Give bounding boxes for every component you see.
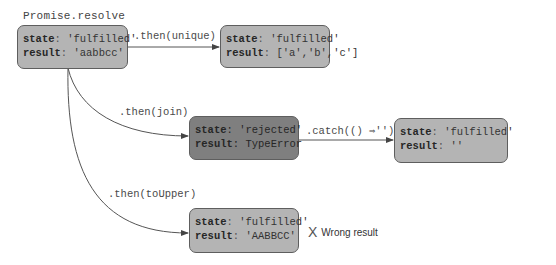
result-key: result	[195, 138, 233, 150]
origin-label: Promise.resolve	[23, 10, 125, 22]
result-key: result	[400, 140, 438, 152]
promise-node-toupper: state: 'fulfilled' result: 'AABBCC'	[189, 208, 299, 253]
result-key: result	[195, 230, 233, 242]
edge-then-toupper	[68, 68, 188, 233]
state-key: state	[226, 33, 258, 45]
result-value: ''	[450, 140, 463, 152]
wrong-result-annotation: XWrong result	[308, 223, 378, 239]
promise-node-join-rejected: state: 'rejected' result: TypeError	[189, 116, 299, 160]
annotation-text: Wrong result	[321, 227, 378, 238]
edge-label-then-toupper: .then(toUpper)	[108, 188, 196, 200]
result-key: result	[226, 47, 264, 59]
edge-label-catch: .catch(() ⇒'')	[306, 124, 394, 137]
result-value: 'AABBCC'	[245, 230, 295, 242]
edge-label-then-join: .then(join)	[119, 106, 188, 118]
result-value: 'aabbcc'	[73, 47, 123, 59]
result-value: ['a','b','c']	[276, 47, 358, 59]
state-key: state	[400, 126, 432, 138]
x-mark-icon: X	[308, 224, 317, 240]
state-value: 'fulfilled'	[239, 216, 308, 228]
edge-then-join	[68, 68, 188, 136]
promise-node-initial: state: 'fulfilled' result: 'aabbcc'	[17, 25, 128, 69]
promise-node-catch: state: 'fulfilled' result: ''	[394, 118, 508, 163]
state-key: state	[23, 33, 55, 45]
state-value: 'fulfilled'	[270, 33, 339, 45]
edge-label-then-unique: .then(unique)	[134, 30, 216, 42]
state-value: 'fulfilled'	[67, 33, 136, 45]
state-value: 'fulfilled'	[444, 126, 513, 138]
result-value: TypeError	[245, 138, 302, 150]
state-key: state	[195, 124, 227, 136]
result-key: result	[23, 47, 61, 59]
promise-node-unique: state: 'fulfilled' result: ['a','b','c']	[220, 25, 330, 68]
state-value: 'rejected'	[239, 124, 302, 136]
state-key: state	[195, 216, 227, 228]
